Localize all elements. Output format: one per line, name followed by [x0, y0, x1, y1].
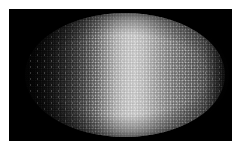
micrograph-figure: Embryo fluorescence micrograph Dorsovent… [0, 0, 241, 151]
imaging-field [9, 9, 232, 141]
axis-label-y: Dorsal - Ventral position [0, 0, 1, 1]
figure-title: Embryo fluorescence micrograph [0, 0, 1, 1]
nuclear-texture-layer [25, 13, 225, 137]
nuclear-speckle-layer [25, 13, 225, 137]
nuclear-texture-layer-secondary [25, 13, 225, 137]
edge-vignette [25, 13, 225, 137]
figure-caption: Dorsoventral view of an ellipsoidal embr… [0, 0, 1, 1]
embryo-specimen [25, 13, 225, 137]
axis-label-x: Anterior - Posterior position (% egg len… [0, 0, 1, 1]
